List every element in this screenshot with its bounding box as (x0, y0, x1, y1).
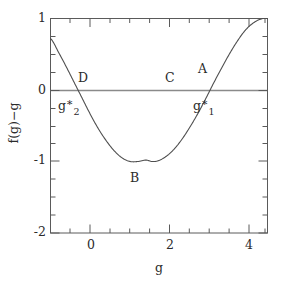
g-star-1-base: g (193, 98, 201, 113)
annotation-A: A (198, 63, 207, 76)
x-tick-label-2: 2 (164, 239, 176, 252)
x-tick-label-4: 4 (243, 239, 255, 252)
x-axis-top-ticks (70, 19, 265, 28)
y-axis-right-ticks (259, 19, 268, 234)
g-star-1-asterisk: ∗ (201, 96, 208, 109)
x-axis-title: g (153, 262, 165, 275)
y-tick-label-minus1: -1 (28, 154, 46, 167)
g-star-2-subscript: 2 (74, 106, 80, 117)
g-star-2-base: g (58, 98, 66, 113)
x-axis-major-ticks (90, 225, 249, 234)
x-axis-minor-ticks (70, 229, 265, 234)
annotation-g-star-2: g∗2 (58, 96, 80, 115)
y-axis-minor-ticks (51, 37, 56, 216)
annotation-D: D (78, 72, 88, 85)
y-tick-label-minus2: -2 (28, 226, 46, 239)
y-axis-title-wrapper: f(g)−g (4, 78, 22, 168)
g-star-2-asterisk: ∗ (66, 96, 73, 109)
g-star-1-subscript: 1 (209, 106, 215, 117)
plot-frame (51, 19, 268, 234)
x-tick-label-0: 0 (85, 239, 97, 252)
annotation-B: B (130, 172, 139, 185)
annotation-g-star-1: g∗1 (193, 96, 215, 115)
y-tick-label-0: 0 (36, 84, 46, 97)
plot-canvas (0, 0, 282, 293)
y-tick-label-1: 1 (36, 12, 46, 25)
y-axis-title: f(g)−g (6, 103, 21, 144)
chart-figure: 1 0 -1 -2 0 2 4 g f(g)−g A B C D g∗1 g∗2 (0, 0, 282, 293)
annotation-C: C (165, 72, 175, 85)
